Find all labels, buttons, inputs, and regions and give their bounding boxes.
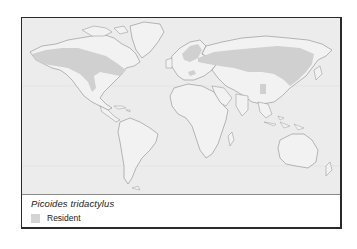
greenland [130, 22, 164, 58]
map-figure: Picoides tridactylus Resident [21, 17, 342, 229]
world-map-svg [22, 18, 340, 194]
legend-swatch-resident [31, 214, 40, 223]
south-america [118, 118, 158, 184]
indonesia [264, 116, 304, 130]
british-isles [166, 58, 172, 68]
caribbean [114, 106, 130, 112]
southeast-asia [258, 102, 272, 118]
map-legend: Picoides tridactylus Resident [22, 195, 340, 227]
legend-item-resident: Resident [31, 213, 81, 223]
range-central-asia [260, 84, 266, 94]
species-name: Picoides tridactylus [31, 198, 114, 209]
world-map [22, 18, 340, 195]
madagascar [228, 132, 234, 146]
arctic-islands [82, 26, 128, 36]
australia [278, 134, 318, 168]
legend-label-resident: Resident [47, 213, 81, 223]
japan [314, 66, 322, 80]
new-zealand [326, 162, 332, 176]
antarctica-edge [132, 186, 140, 190]
